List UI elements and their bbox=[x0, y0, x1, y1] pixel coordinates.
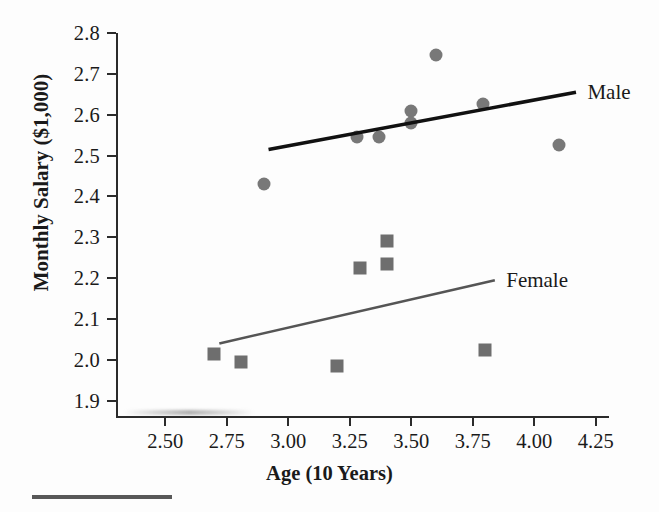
y-tick-mark bbox=[107, 114, 116, 116]
data-point-male bbox=[552, 139, 565, 152]
data-point-female bbox=[353, 261, 366, 274]
y-tick-mark bbox=[107, 359, 116, 361]
data-point-male bbox=[405, 104, 418, 117]
x-tick-mark bbox=[226, 417, 228, 426]
y-tick-mark bbox=[107, 155, 116, 157]
data-point-male bbox=[351, 131, 364, 144]
baseline-smudge bbox=[124, 410, 254, 415]
y-tick-mark bbox=[107, 73, 116, 75]
x-tick-label: 3.75 bbox=[455, 430, 491, 453]
y-tick-mark bbox=[107, 400, 116, 402]
data-point-male bbox=[429, 49, 442, 62]
y-tick-label: 1.9 bbox=[74, 389, 100, 412]
x-tick-label: 3.25 bbox=[332, 430, 368, 453]
x-tick-mark bbox=[349, 417, 351, 426]
x-tick-label: 2.75 bbox=[209, 430, 245, 453]
y-tick-label: 2.1 bbox=[74, 307, 100, 330]
y-tick-label: 2.4 bbox=[74, 185, 100, 208]
scatter-plot-figure: 2.82.72.62.52.42.32.22.12.01.9 2.502.753… bbox=[0, 0, 659, 512]
data-point-female bbox=[235, 355, 248, 368]
x-tick-mark bbox=[472, 417, 474, 426]
y-tick-mark bbox=[107, 318, 116, 320]
y-tick-mark bbox=[107, 32, 116, 34]
x-tick-mark bbox=[164, 417, 166, 426]
x-tick-label: 4.00 bbox=[516, 430, 552, 453]
y-axis-title: Monthly Salary ($1,000) bbox=[29, 33, 54, 333]
series-label-female: Female bbox=[506, 268, 568, 293]
footer-rule bbox=[32, 495, 172, 499]
x-tick-label: 2.50 bbox=[147, 430, 183, 453]
y-axis-line bbox=[116, 33, 118, 417]
trendline-male bbox=[269, 92, 577, 149]
x-tick-mark bbox=[595, 417, 597, 426]
data-point-male bbox=[373, 131, 386, 144]
y-tick-mark bbox=[107, 236, 116, 238]
x-tick-label: 4.25 bbox=[578, 430, 614, 453]
x-tick-mark bbox=[533, 417, 535, 426]
y-tick-mark bbox=[107, 195, 116, 197]
y-tick-label: 2.5 bbox=[74, 144, 100, 167]
y-tick-label: 2.0 bbox=[74, 348, 100, 371]
y-tick-label: 2.2 bbox=[74, 267, 100, 290]
x-tick-mark bbox=[410, 417, 412, 426]
y-tick-label: 2.3 bbox=[74, 226, 100, 249]
data-point-female bbox=[331, 359, 344, 372]
x-tick-label: 3.50 bbox=[393, 430, 429, 453]
y-tick-mark bbox=[107, 277, 116, 279]
trendline-female bbox=[219, 280, 495, 343]
y-tick-label: 2.8 bbox=[74, 22, 100, 45]
x-axis-title: Age (10 Years) bbox=[0, 462, 659, 485]
x-tick-label: 3.00 bbox=[270, 430, 306, 453]
data-point-female bbox=[380, 235, 393, 248]
data-point-male bbox=[405, 116, 418, 129]
data-point-male bbox=[257, 178, 270, 191]
y-tick-label: 2.7 bbox=[74, 62, 100, 85]
x-tick-mark bbox=[287, 417, 289, 426]
y-tick-label: 2.6 bbox=[74, 103, 100, 126]
data-point-male bbox=[476, 98, 489, 111]
series-label-male: Male bbox=[587, 80, 630, 105]
data-point-female bbox=[479, 343, 492, 356]
data-point-female bbox=[208, 347, 221, 360]
data-point-female bbox=[380, 257, 393, 270]
